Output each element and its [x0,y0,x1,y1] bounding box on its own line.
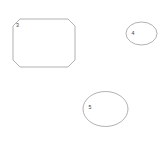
ellipse-small-label: 4 [132,30,135,36]
shapes-svg: 3 4 5 [0,0,165,149]
octagon-label: 3 [16,22,19,28]
octagon-shape[interactable] [13,19,75,67]
shape-group-ellipse-large[interactable]: 5 [83,92,128,127]
ellipse-large-label: 5 [89,104,92,110]
shape-group-ellipse-small[interactable]: 4 [126,22,157,45]
shape-group-octagon[interactable]: 3 [13,19,75,67]
diagram-canvas: 3 4 5 [0,0,165,149]
